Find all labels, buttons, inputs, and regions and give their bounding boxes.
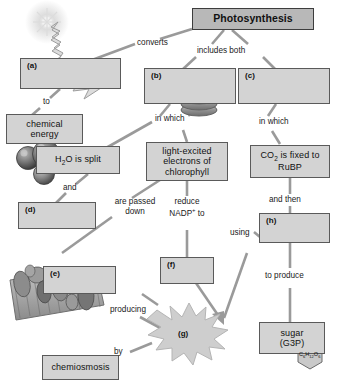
node-co2-fixed-to-rubp-label: CO2 is fixed toRuBP <box>260 150 319 172</box>
node-chemical-energy[interactable]: chemicalenergy <box>6 114 83 144</box>
node-c[interactable]: (c) <box>238 68 330 104</box>
edge-label-in-which-right: in which <box>259 117 289 127</box>
node-h[interactable]: (h) <box>259 213 330 243</box>
node-light-excited-electrons[interactable]: light-excitedelectrons ofchlorophyll <box>146 142 228 181</box>
node-d[interactable]: (d) <box>18 202 96 229</box>
node-b[interactable]: (b) <box>144 68 236 104</box>
edge-label-by: by <box>114 347 123 357</box>
node-h2o-is-split-label: H2O is split <box>55 154 101 166</box>
edge-label-producing: producing <box>110 305 146 315</box>
glucose-formula-label: C6H12O6 <box>299 351 320 359</box>
node-g-label[interactable]: (g) <box>178 329 188 338</box>
edge-label-are-passed-down: are passeddown <box>108 197 162 217</box>
edge-label-to: to <box>43 97 50 107</box>
edge-label-in-which-left: in which <box>155 114 185 124</box>
node-sugar[interactable]: sugar(G3P) <box>259 322 325 354</box>
node-f[interactable]: (f) <box>160 257 214 284</box>
edge-label-includes-both: includes both <box>197 46 245 56</box>
node-h2o-is-split[interactable]: H2O is split <box>36 146 120 174</box>
node-light-excited-electrons-label: light-excitedelectrons ofchlorophyll <box>162 146 211 176</box>
node-a[interactable]: (a) <box>20 58 121 89</box>
edge-label-and-then: and then <box>269 195 301 205</box>
node-chemical-energy-label: chemicalenergy <box>26 119 62 139</box>
edge-label-converts: converts <box>137 38 168 48</box>
edge-label-and: and <box>63 183 77 193</box>
node-chemiosmosis[interactable]: chemiosmosis <box>42 355 119 380</box>
edge-label-using: using <box>230 228 250 238</box>
node-sugar-label: sugar(G3P) <box>280 328 305 348</box>
diagram-canvas: Photosynthesis (a) (b) (c) chemicalenerg… <box>0 0 337 388</box>
node-photosynthesis[interactable]: Photosynthesis <box>192 8 314 30</box>
node-e[interactable]: (e) <box>43 266 116 294</box>
node-co2-fixed-to-rubp[interactable]: CO2 is fixed toRuBP <box>250 145 330 178</box>
edge-label-reduce-nadp-to: reduceNADP+ to <box>160 197 214 218</box>
edge-label-to-produce: to produce <box>265 271 304 281</box>
sun-icon <box>25 0 69 44</box>
